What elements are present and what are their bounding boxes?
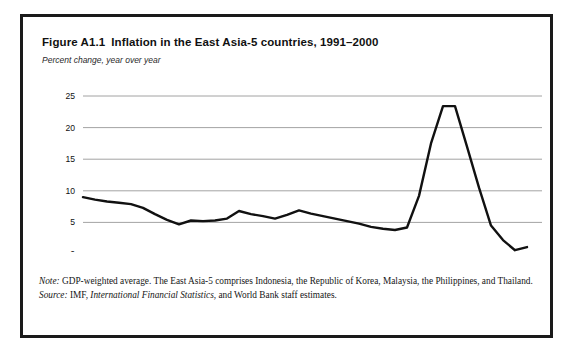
y-axis-tick-label: 10 bbox=[65, 186, 75, 196]
figure-subtitle: Percent change, year over year bbox=[42, 55, 161, 65]
gridlines bbox=[83, 96, 542, 252]
source-text-before: IMF, bbox=[68, 290, 91, 300]
figure-number: Figure A1.1 bbox=[42, 36, 105, 48]
note-text: GDP-weighted average. The East Asia-5 co… bbox=[60, 276, 533, 286]
figure-frame: Figure A1.1Inflation in the East Asia-5 … bbox=[20, 14, 553, 338]
y-axis-tick-label: 15 bbox=[65, 154, 75, 164]
y-axis-tick-label: 25 bbox=[65, 91, 75, 101]
source-label: Source: bbox=[39, 290, 68, 300]
source-line: Source: IMF, International Financial Sta… bbox=[39, 289, 539, 302]
figure-title: Figure A1.1Inflation in the East Asia-5 … bbox=[42, 36, 378, 48]
note-line: Note: GDP-weighted average. The East Asi… bbox=[39, 275, 539, 288]
y-axis-tick-label: 20 bbox=[65, 123, 75, 133]
figure-title-text: Inflation in the East Asia-5 countries, … bbox=[111, 36, 378, 48]
figure-footnotes: Note: GDP-weighted average. The East Asi… bbox=[39, 275, 539, 302]
y-axis-tick-labels: 0510152025 bbox=[65, 91, 75, 252]
y-axis-tick-label: 0 bbox=[70, 249, 75, 252]
note-label: Note: bbox=[39, 276, 60, 286]
source-publication: International Financial Statistics bbox=[90, 290, 213, 300]
source-text-after: , and World Bank staff estimates. bbox=[214, 290, 337, 300]
inflation-line-chart: 0510152025 Q1 1991Q1 1992Q1 1993Q1 1994Q… bbox=[42, 69, 542, 252]
y-axis-tick-label: 5 bbox=[70, 217, 75, 227]
chart-plot-area: 0510152025 Q1 1991Q1 1992Q1 1993Q1 1994Q… bbox=[42, 69, 542, 252]
